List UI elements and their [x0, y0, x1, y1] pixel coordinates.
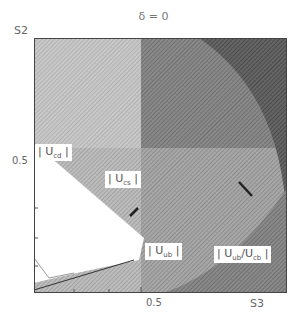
- label-uub-ucb: | Uub/Ucb |: [214, 246, 271, 263]
- label-uub: | Uub |: [145, 243, 182, 260]
- label-ucd: | Ucd |: [35, 144, 72, 161]
- x-axis-label: S3: [250, 297, 264, 310]
- x-tick-0-5: 0.5: [146, 297, 162, 308]
- chart-title: δ = 0: [0, 10, 307, 23]
- y-tick-0-5: 0.5: [12, 155, 28, 166]
- y-axis-label: S2: [14, 24, 28, 37]
- label-ucs: | Ucs |: [105, 171, 141, 188]
